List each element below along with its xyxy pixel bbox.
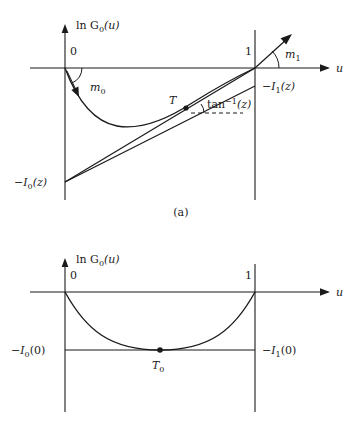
panel-b-plot: ln G0(u) u 0 1 T0 −I0(0) −I1(0) (0, 222, 362, 422)
minimum-point-marker-b (157, 347, 163, 353)
x-axis-label-b: u (336, 286, 343, 299)
caption-panel-a: (a) (0, 206, 362, 219)
minimum-point-label-b: T0 (152, 359, 164, 374)
angle-arc-tan-a (201, 104, 204, 113)
left-intercept-label-b: −I0(0) (11, 344, 45, 359)
tick-label-one-a: 1 (245, 45, 252, 58)
curve-ln-g0-b (65, 292, 255, 350)
slope-m1-ray-a (255, 39, 287, 68)
x-axis-label-a: u (336, 62, 343, 75)
tick-label-one-b: 1 (245, 269, 252, 282)
x-axis-arrowhead-b (320, 288, 330, 296)
angle-arc-m0-a (72, 68, 82, 83)
y-axis-label-b: ln G0(u) (76, 253, 120, 268)
panel-b: ln G0(u) u 0 1 T0 −I0(0) −I1(0) (b) (0, 222, 362, 444)
left-intercept-label-a: −I0(z) (14, 176, 47, 191)
tangency-point-label-a: T (169, 94, 178, 107)
tick-label-zero-a: 0 (70, 45, 77, 58)
slope-m1-label-a: m1 (285, 48, 301, 63)
panel-a: ln G0(u) u 0 1 m0 m1 T tan−1(z) −I0(z) −… (0, 0, 362, 222)
y-axis-arrowhead-a (62, 24, 69, 33)
tick-label-zero-b: 0 (70, 269, 77, 282)
y-axis-arrowhead-b (62, 258, 69, 267)
right-intercept-label-a: −I1(z) (262, 80, 295, 95)
panel-a-plot: ln G0(u) u 0 1 m0 m1 T tan−1(z) −I0(z) −… (0, 0, 362, 210)
slope-m0-label-a: m0 (90, 81, 106, 96)
angle-arc-m1-a (272, 51, 279, 68)
x-axis-arrowhead-a (320, 64, 330, 72)
angle-label-tan-a: tan−1(z) (207, 97, 251, 111)
tangency-point-marker-a (183, 105, 188, 110)
right-intercept-label-b: −I1(0) (262, 344, 296, 359)
figure-container: ln G0(u) u 0 1 m0 m1 T tan−1(z) −I0(z) −… (0, 0, 362, 444)
y-axis-label-a: ln G0(u) (76, 19, 120, 34)
